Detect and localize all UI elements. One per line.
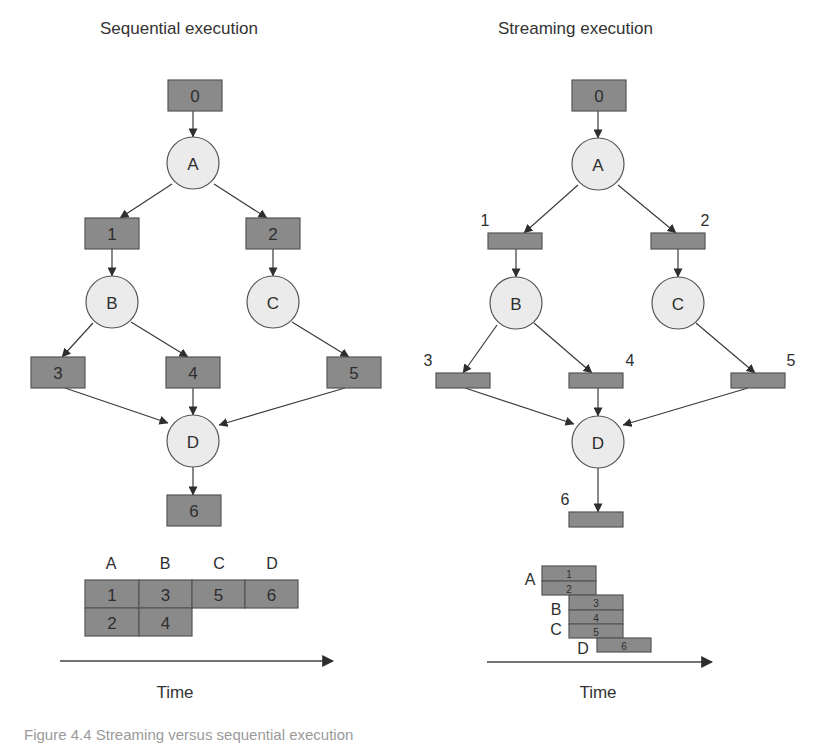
data-box-label: 4 xyxy=(188,364,197,383)
timeline-cell-label: 2 xyxy=(566,584,572,595)
data-box-label: 2 xyxy=(701,212,710,229)
edge-arrow xyxy=(219,388,345,425)
timeline-cell-label: 3 xyxy=(593,598,599,609)
data-box-2: 2 xyxy=(246,218,300,249)
operator-node-C: C xyxy=(652,277,704,329)
figure-caption: Figure 4.4 Streaming versus sequential e… xyxy=(24,726,353,743)
data-box-rect xyxy=(488,233,542,249)
data-box-rect xyxy=(436,373,490,388)
operator-node-D: D xyxy=(167,415,219,467)
data-box-label: 0 xyxy=(190,87,199,106)
data-box-0: 0 xyxy=(572,80,626,111)
timeline-cell-label: 6 xyxy=(621,641,627,652)
data-box-label: 3 xyxy=(53,364,62,383)
timeline-cell-label: 4 xyxy=(593,613,599,624)
timeline-phase-label: C xyxy=(550,621,562,638)
data-box-label: 1 xyxy=(481,212,490,229)
data-box-label: 0 xyxy=(594,87,603,106)
data-box-5: 5 xyxy=(731,352,796,388)
timeline-sequential: 135624ABCDTime xyxy=(60,555,333,702)
operator-label: C xyxy=(267,294,279,313)
timeline-phase-label: A xyxy=(106,555,117,572)
data-box-2: 2 xyxy=(651,212,710,249)
timeline-cell-label: 2 xyxy=(107,614,116,633)
timeline-cell-label: 6 xyxy=(267,586,276,605)
edge-arrow xyxy=(696,323,755,373)
operator-node-D: D xyxy=(572,416,624,468)
data-box-label: 1 xyxy=(107,225,116,244)
data-box-4: 4 xyxy=(569,352,635,388)
panel-title: Sequential execution xyxy=(100,19,258,38)
data-box-1: 1 xyxy=(481,212,542,249)
data-box-6: 6 xyxy=(167,495,221,526)
data-box-3: 3 xyxy=(424,352,490,388)
timeline-cell-label: 1 xyxy=(107,586,116,605)
operator-label: A xyxy=(187,155,199,174)
operator-label: D xyxy=(592,434,604,453)
operator-label: A xyxy=(592,156,604,175)
data-box-6: 6 xyxy=(561,491,623,527)
data-box-label: 2 xyxy=(268,225,277,244)
data-box-rect xyxy=(731,373,785,388)
streaming-execution-panel: Streaming execution0123456ABCD123456ABCD… xyxy=(424,19,796,702)
edge-arrow xyxy=(534,323,592,373)
edge-arrow xyxy=(131,322,188,357)
timeline-phase-label: B xyxy=(160,555,171,572)
edge-arrow xyxy=(465,388,574,424)
timeline-phase-label: B xyxy=(551,601,562,618)
edge-arrow xyxy=(524,185,578,233)
timeline-cell-label: 5 xyxy=(214,586,223,605)
data-box-0: 0 xyxy=(168,80,222,111)
edge-arrow xyxy=(623,388,748,425)
data-box-label: 4 xyxy=(626,352,635,369)
timeline-cell-label: 4 xyxy=(161,614,170,633)
operator-label: D xyxy=(187,433,199,452)
operator-label: B xyxy=(510,295,521,314)
timeline-cell-label: 5 xyxy=(593,627,599,638)
timeline-phase-label: D xyxy=(266,555,278,572)
timeline-phase-label: D xyxy=(577,640,589,657)
timeline-cell-label: 3 xyxy=(161,586,170,605)
operator-label: C xyxy=(672,295,684,314)
operator-node-B: B xyxy=(490,277,542,329)
data-box-1: 1 xyxy=(85,218,139,249)
edge-arrow xyxy=(618,185,676,233)
timeline-phase-label: A xyxy=(525,571,536,588)
edge-arrow xyxy=(120,184,172,218)
panel-title: Streaming execution xyxy=(498,19,653,38)
timeline-streaming: 123456ABCDTime xyxy=(487,566,712,702)
operator-node-B: B xyxy=(86,276,138,328)
timeline-cell-label: 1 xyxy=(566,569,572,580)
time-axis-label: Time xyxy=(156,683,193,702)
sequential-execution-panel: Sequential execution0123456ABCD135624ABC… xyxy=(31,19,381,702)
data-box-4: 4 xyxy=(166,357,220,388)
operator-label: B xyxy=(106,294,117,313)
data-box-3: 3 xyxy=(31,357,85,388)
edge-arrow xyxy=(292,322,349,357)
data-box-label: 5 xyxy=(787,352,796,369)
edge-arrow xyxy=(214,184,267,218)
data-box-label: 6 xyxy=(189,502,198,521)
timeline-phase-label: C xyxy=(213,555,225,572)
data-box-rect xyxy=(569,373,623,388)
data-box-label: 5 xyxy=(349,364,358,383)
edge-arrow xyxy=(463,325,497,373)
data-box-label: 6 xyxy=(561,491,570,508)
edge-arrow xyxy=(62,323,93,357)
data-box-rect xyxy=(569,512,623,527)
operator-node-A: A xyxy=(167,137,219,189)
edge-arrow xyxy=(65,388,168,423)
operator-node-C: C xyxy=(247,276,299,328)
time-axis-label: Time xyxy=(579,683,616,702)
data-box-5: 5 xyxy=(327,357,381,388)
data-box-rect xyxy=(651,233,705,249)
operator-node-A: A xyxy=(572,138,624,190)
data-box-label: 3 xyxy=(424,352,433,369)
